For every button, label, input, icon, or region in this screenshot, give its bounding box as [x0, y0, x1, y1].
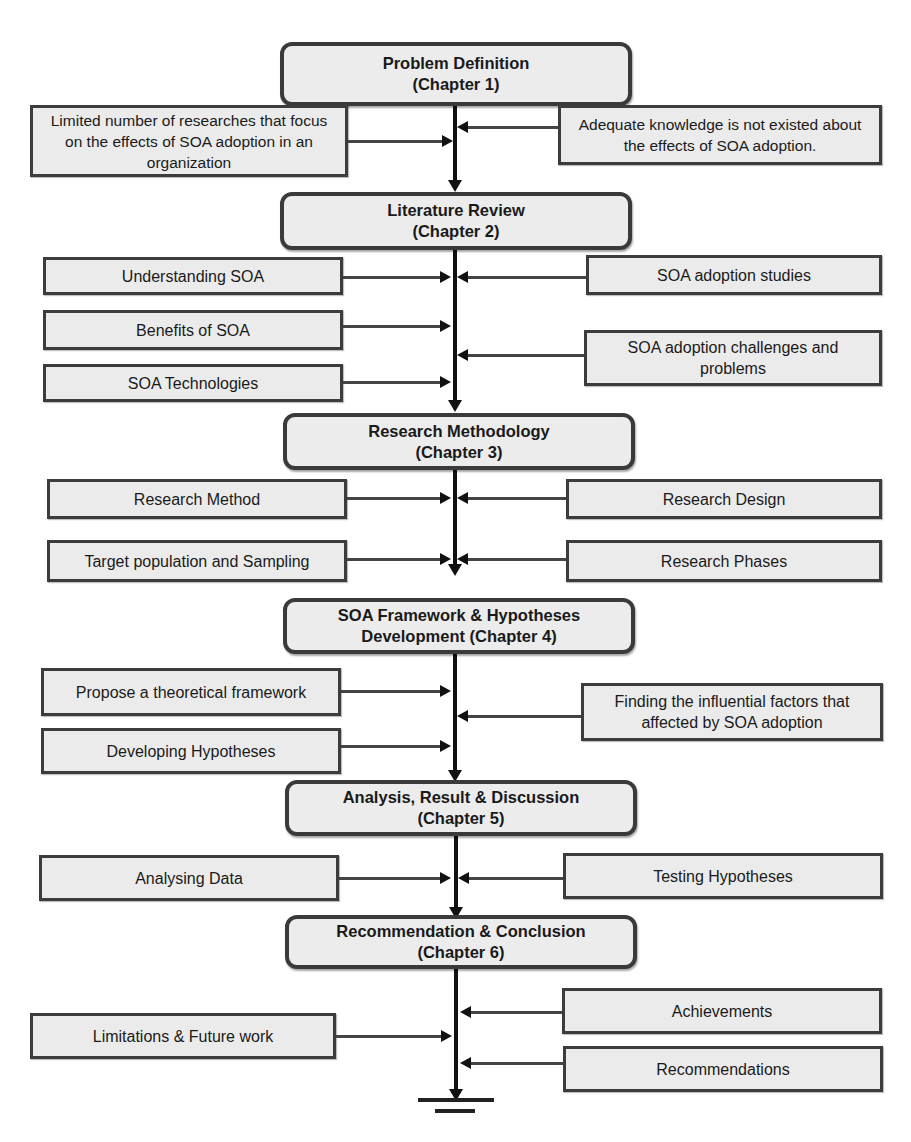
ch2-right-item: SOA adoption challenges and problems [584, 330, 882, 386]
chapter-subtitle: (Chapter 3) [415, 442, 502, 463]
ch3-left-item: Research Method [47, 479, 347, 519]
ch4-left-item: Propose a theoretical framework [41, 668, 341, 716]
chapter-1-box: Problem Definition (Chapter 1) [280, 42, 632, 106]
arrow-left-icon [460, 1006, 471, 1018]
connector [339, 877, 441, 880]
connector [467, 558, 566, 561]
ch3-left-item: Target population and Sampling [47, 540, 347, 582]
chapter-subtitle: (Chapter 5) [417, 808, 504, 829]
connector [347, 497, 441, 500]
down-arrow-icon [448, 564, 462, 576]
chapter-title: Problem Definition [383, 53, 530, 74]
arrow-right-icon [441, 1030, 452, 1042]
connector [470, 1062, 563, 1065]
arrow-left-icon [457, 349, 468, 361]
connector [468, 877, 563, 880]
ch3-right-item: Research Design [566, 479, 882, 519]
ch5-left-item: Analysing Data [39, 855, 339, 901]
ch2-left-item: Understanding SOA [43, 257, 343, 295]
chapter-subtitle: (Chapter 2) [412, 221, 499, 242]
ch4-right-item: Finding the influential factors that aff… [581, 683, 883, 741]
ch2-left-item: Benefits of SOA [43, 310, 343, 350]
connector [341, 745, 441, 748]
ch6-left-item: Limitations & Future work [30, 1013, 336, 1059]
connector [468, 126, 558, 129]
arrow-left-icon [458, 872, 469, 884]
arrow-left-icon [457, 121, 468, 133]
chapter-6-box: Recommendation & Conclusion (Chapter 6) [285, 915, 637, 969]
chapter-4-box: SOA Framework & Hypotheses Development (… [283, 598, 635, 654]
connector [467, 715, 581, 718]
ch1-right-item: Adequate knowledge is not existed about … [558, 105, 882, 165]
connector [341, 690, 441, 693]
ch3-right-item: Research Phases [566, 540, 882, 582]
chapter-5-box: Analysis, Result & Discussion (Chapter 5… [285, 780, 637, 836]
connector [467, 276, 586, 279]
chapter-3-box: Research Methodology (Chapter 3) [283, 413, 635, 470]
chapter-title: Literature Review [387, 200, 525, 221]
terminator-icon [435, 1109, 475, 1113]
chapter-subtitle: (Chapter 1) [412, 74, 499, 95]
chapter-title: SOA Framework & Hypotheses [338, 605, 580, 626]
arrow-right-icon [440, 685, 451, 697]
ch6-right-item: Recommendations [563, 1046, 883, 1092]
arrow-left-icon [460, 1057, 471, 1069]
arrow-right-icon [440, 376, 451, 388]
connector [343, 276, 441, 279]
chapter-title: Recommendation & Conclusion [336, 921, 585, 942]
arrow-right-icon [440, 320, 451, 332]
flow-spine [453, 244, 457, 406]
connector [467, 497, 566, 500]
arrow-left-icon [457, 553, 468, 565]
arrow-left-icon [457, 271, 468, 283]
arrow-right-icon [440, 553, 451, 565]
connector [343, 381, 441, 384]
flow-spine [454, 965, 458, 1095]
arrow-right-icon [440, 872, 451, 884]
chapter-subtitle: (Chapter 6) [417, 942, 504, 963]
ch2-right-item: SOA adoption studies [586, 255, 882, 295]
down-arrow-icon [448, 400, 462, 412]
arrow-left-icon [457, 710, 468, 722]
chapter-title: Analysis, Result & Discussion [343, 787, 580, 808]
connector [336, 1035, 442, 1038]
terminator-icon [418, 1098, 494, 1102]
flow-spine [453, 104, 457, 186]
connector [467, 354, 584, 357]
ch1-left-item: Limited number of researches that focus … [30, 105, 348, 177]
ch2-left-item: SOA Technologies [43, 364, 343, 402]
ch4-left-item: Developing Hypotheses [41, 728, 341, 774]
arrow-right-icon [440, 492, 451, 504]
chapter-2-box: Literature Review (Chapter 2) [280, 192, 632, 250]
arrow-right-icon [440, 740, 451, 752]
connector [348, 140, 443, 143]
connector [470, 1011, 562, 1014]
ch6-right-item: Achievements [562, 988, 882, 1034]
arrow-right-icon [442, 135, 453, 147]
connector [343, 325, 441, 328]
chapter-subtitle: Development (Chapter 4) [361, 626, 556, 647]
connector [347, 558, 441, 561]
arrow-right-icon [440, 271, 451, 283]
arrow-left-icon [457, 492, 468, 504]
chapter-title: Research Methodology [368, 421, 550, 442]
ch5-right-item: Testing Hypotheses [563, 853, 883, 899]
down-arrow-icon [448, 180, 462, 192]
